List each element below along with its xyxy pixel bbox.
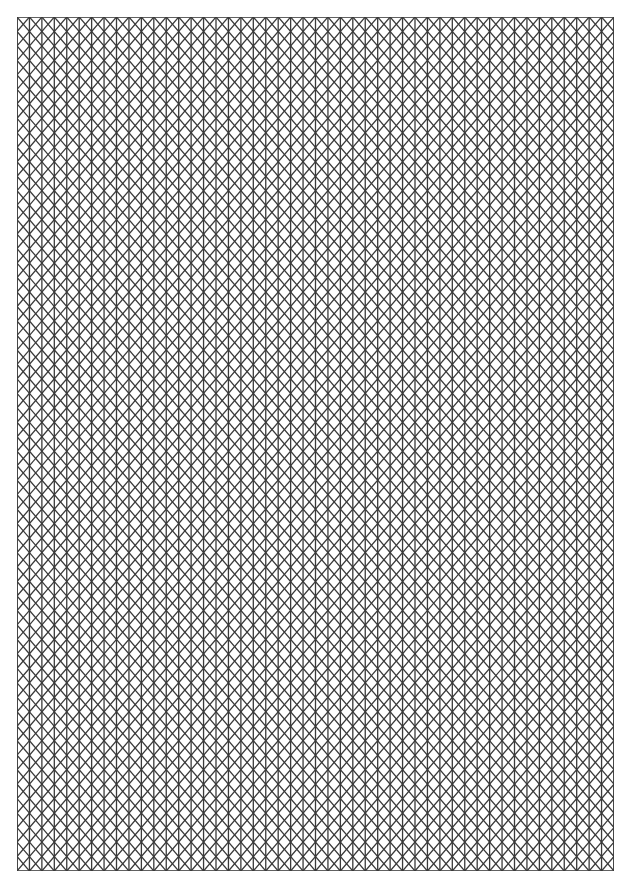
isometric-triangle-grid [17, 17, 614, 871]
page-canvas [0, 0, 632, 890]
graph-paper-sheet [17, 17, 614, 871]
